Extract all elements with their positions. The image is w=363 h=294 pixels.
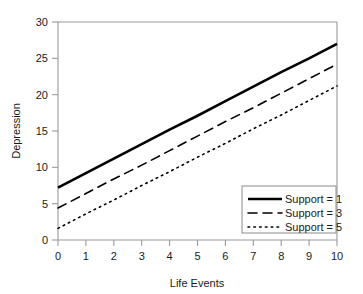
x-tick-label: 2 <box>111 250 117 262</box>
x-tick-label: 1 <box>83 250 89 262</box>
x-tick-label: 9 <box>306 250 312 262</box>
x-tick-label: 7 <box>250 250 256 262</box>
y-tick-label: 15 <box>36 125 48 137</box>
legend-label-3: Support = 5 <box>285 221 342 233</box>
x-tick-label: 3 <box>139 250 145 262</box>
y-tick-label: 5 <box>42 198 48 210</box>
y-axis-title: Depression <box>10 103 22 159</box>
line-chart: 302520151050 012345678910 Life Events De… <box>0 0 363 294</box>
y-axis-ticks: 302520151050 <box>36 16 58 246</box>
x-axis-title: Life Events <box>170 277 225 289</box>
x-tick-label: 4 <box>167 250 173 262</box>
x-tick-label: 10 <box>331 250 343 262</box>
x-tick-label: 0 <box>55 250 61 262</box>
chart-container: 302520151050 012345678910 Life Events De… <box>0 0 363 294</box>
y-tick-label: 30 <box>36 16 48 28</box>
legend-label-2: Support = 3 <box>285 207 342 219</box>
series-line-1 <box>58 44 337 188</box>
y-tick-label: 20 <box>36 89 48 101</box>
x-tick-label: 5 <box>194 250 200 262</box>
x-tick-label: 8 <box>278 250 284 262</box>
legend-label-1: Support = 1 <box>285 193 342 205</box>
x-axis-ticks: 012345678910 <box>55 240 343 262</box>
y-tick-label: 10 <box>36 161 48 173</box>
x-tick-label: 6 <box>222 250 228 262</box>
legend: Support = 1Support = 3Support = 5 <box>242 186 342 233</box>
y-tick-label: 0 <box>42 234 48 246</box>
y-tick-label: 25 <box>36 52 48 64</box>
